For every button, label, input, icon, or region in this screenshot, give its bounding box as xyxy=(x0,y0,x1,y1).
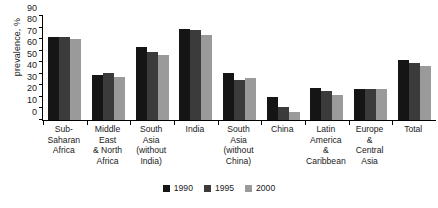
x-axis-label: SouthAsia(withoutIndia) xyxy=(129,124,173,166)
bar xyxy=(103,73,114,120)
bar xyxy=(59,37,70,120)
y-axis-tick-label: 70 xyxy=(15,26,37,35)
bar-group xyxy=(174,16,218,120)
y-axis-tick-label: 20 xyxy=(15,84,37,93)
legend-item: 1995 xyxy=(204,184,234,193)
bar-group xyxy=(349,16,393,120)
bar xyxy=(310,88,321,120)
bar xyxy=(190,30,201,120)
bar xyxy=(48,37,59,120)
x-axis-label: Europe&CentralAsia xyxy=(348,124,392,166)
legend-label: 1995 xyxy=(215,184,234,193)
bar xyxy=(267,97,278,120)
bar xyxy=(398,60,409,120)
x-axis-label: SouthAsia(withoutChina) xyxy=(217,124,261,166)
chart-legend: 199019952000 xyxy=(0,184,438,193)
bar xyxy=(354,89,365,120)
x-axis-labels: Sub-SaharanAfricaMiddle East& NorthAfric… xyxy=(42,124,435,166)
bar xyxy=(332,95,343,120)
bar-group xyxy=(218,16,262,120)
bar xyxy=(409,63,420,120)
y-axis-tick-label: 10 xyxy=(15,95,37,104)
bar xyxy=(234,80,245,120)
legend-label: 1990 xyxy=(174,184,193,193)
bar-group xyxy=(305,16,349,120)
bar-group xyxy=(87,16,131,120)
y-axis-tick-label: 90 xyxy=(15,3,37,12)
x-axis-label: LatinAmerica&Caribbean xyxy=(304,124,348,166)
bar xyxy=(179,29,190,120)
bar-group xyxy=(43,16,87,120)
legend-item: 2000 xyxy=(245,184,275,193)
bar xyxy=(278,107,289,120)
plot-area: 0102030405060708090 xyxy=(42,16,436,121)
bar xyxy=(136,47,147,120)
bar xyxy=(147,52,158,120)
legend-label: 2000 xyxy=(256,184,275,193)
bar xyxy=(92,75,103,120)
bar-group xyxy=(130,16,174,120)
bar xyxy=(245,78,256,120)
bar-chart-figure: prevalence, % 0102030405060708090 Sub-Sa… xyxy=(0,0,438,208)
bar xyxy=(321,91,332,120)
bar xyxy=(114,77,125,120)
legend-swatch xyxy=(204,185,211,192)
bar xyxy=(420,66,431,120)
y-axis-tick-label: 50 xyxy=(15,49,37,58)
bar xyxy=(70,39,81,120)
y-axis-tick-label: 80 xyxy=(15,15,37,24)
bar-group xyxy=(261,16,305,120)
y-axis-tick-label: 0 xyxy=(15,107,37,116)
legend-swatch xyxy=(245,185,252,192)
y-axis-tick-label: 60 xyxy=(15,38,37,47)
x-axis-label: China xyxy=(260,124,304,166)
bar xyxy=(289,112,300,120)
x-axis-label: India xyxy=(173,124,217,166)
bar xyxy=(158,55,169,120)
bar xyxy=(365,89,376,120)
x-axis-label: Total xyxy=(391,124,435,166)
bar-group xyxy=(392,16,436,120)
legend-swatch xyxy=(163,185,170,192)
x-axis-label: Middle East& NorthAfrica xyxy=(86,124,130,166)
bar xyxy=(201,35,212,121)
y-axis-tick-label: 40 xyxy=(15,61,37,70)
bar xyxy=(223,73,234,120)
bar xyxy=(376,89,387,120)
bars-layer xyxy=(43,16,436,120)
y-axis-tick-label: 30 xyxy=(15,72,37,81)
legend-item: 1990 xyxy=(163,184,193,193)
x-axis-label: Sub-SaharanAfrica xyxy=(42,124,86,166)
